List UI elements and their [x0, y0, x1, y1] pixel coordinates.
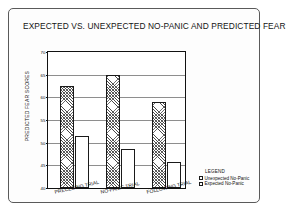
legend-label-unexpected: Unexpected No-Panic — [205, 176, 250, 181]
chart-legend: LEGEND Unexpected No-Panic Expected No-P… — [199, 169, 265, 187]
bar-group: PRECEDING TRIAL — [48, 52, 94, 188]
legend-title: LEGEND — [205, 169, 265, 174]
y-tick-label: 60 — [41, 95, 46, 100]
bar-group: NO-PANIC TRIAL — [94, 52, 140, 188]
legend-item-expected: Expected No-Panic — [199, 181, 265, 186]
y-tick-label: 55 — [41, 118, 46, 123]
y-tick-mark — [46, 188, 49, 189]
y-tick-label: 45 — [41, 163, 46, 168]
plot-area: 40455055606570PRECEDING TRIALNO-PANIC TR… — [47, 51, 186, 189]
y-tick-label: 70 — [41, 50, 46, 55]
white-swatch-icon — [199, 182, 203, 186]
y-axis-title: PREDICTED FEAR SCORES — [24, 70, 30, 140]
bar — [60, 86, 74, 188]
y-tick-label: 65 — [41, 72, 46, 77]
y-tick-label: 40 — [41, 186, 46, 191]
legend-item-unexpected: Unexpected No-Panic — [199, 176, 265, 181]
figure-frame: EXPECTED VS. UNEXPECTED NO-PANIC AND PRE… — [8, 8, 260, 203]
y-tick-label: 50 — [41, 140, 46, 145]
bar — [152, 102, 166, 188]
bar-group: FOLLOWING TRIAL — [139, 52, 185, 188]
chart-title: EXPECTED VS. UNEXPECTED NO-PANIC AND PRE… — [23, 22, 270, 31]
bar — [106, 75, 120, 188]
legend-label-expected: Expected No-Panic — [205, 181, 244, 186]
hatched-swatch-icon — [199, 176, 203, 180]
